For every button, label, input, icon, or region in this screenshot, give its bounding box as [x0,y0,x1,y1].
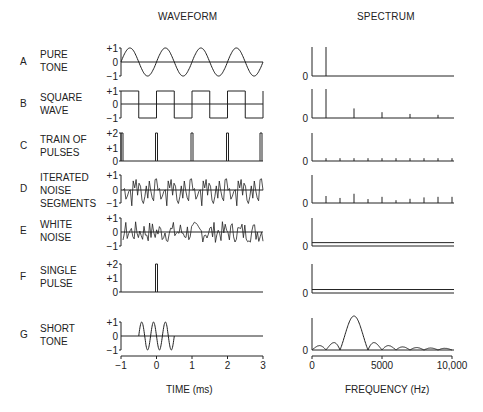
y-tick-label: 0 [112,287,118,298]
spectrum-zero-label: 0 [302,345,308,356]
y-tick-label: +1 [107,317,119,328]
y-tick-label: +1 [107,86,119,97]
frequency-tick-label: 5000 [371,360,394,371]
pulse [260,133,262,161]
spectrum-zero-label: 0 [302,113,308,124]
y-tick-label: −1 [107,345,119,356]
pulse [191,133,193,161]
y-tick-label: 0 [112,57,118,68]
single-pulse [156,264,158,292]
spectrum-zero-label: 0 [302,288,308,299]
y-tick-label: −1 [107,198,119,209]
time-tick-label: −1 [115,360,127,371]
time-tick-label: 3 [260,360,266,371]
pulse [156,133,158,161]
y-tick-label: 0 [112,227,118,238]
time-tick-label: 2 [225,360,231,371]
y-tick-label: −1 [107,71,119,82]
pulse [227,133,229,161]
spectrum-zero-label: 0 [302,71,308,82]
y-tick-label: 0 [112,99,118,110]
y-tick-label: 0 [112,185,118,196]
y-tick-label: −1 [107,113,119,124]
spectrum-zero-label: 0 [302,156,308,167]
y-tick-label: −1 [107,241,119,252]
y-tick-label: 0 [112,156,118,167]
y-tick-label: +1 [107,273,119,284]
time-tick-label: 1 [189,360,195,371]
spectrum-zero-label: 0 [302,241,308,252]
y-tick-label: +1 [107,43,119,54]
y-tick-label: +1 [107,170,119,181]
iterated-noise-wave [123,179,263,206]
frequency-tick-label: 0 [309,360,315,371]
time-tick-label: 0 [154,360,160,371]
y-tick-label: +1 [107,213,119,224]
sinc-spectrum [312,316,452,350]
frequency-tick-label: 10,000 [437,360,468,371]
plots-canvas: +10−1+10−1+2+10+10−1+10−1+2+10+10−1−1012… [0,0,483,412]
y-tick-label: 0 [112,331,118,342]
y-tick-label: +2 [107,128,119,139]
pulse [121,133,123,161]
spectrum-zero-label: 0 [302,198,308,209]
y-tick-label: +2 [107,259,119,270]
y-tick-label: +1 [107,143,119,154]
